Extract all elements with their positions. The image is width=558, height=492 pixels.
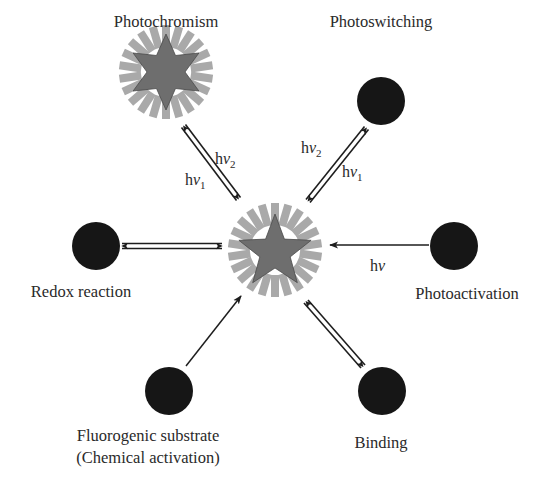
photochromism-hv1-label: hν1: [185, 171, 206, 191]
fluorogenic-arrow: [186, 296, 241, 366]
photoactivation-hv-label: hν: [370, 257, 386, 274]
photoswitching-label: Photoswitching: [330, 12, 433, 31]
redox-arrow: [122, 244, 222, 249]
binding-circle-icon: [358, 367, 406, 415]
binding-arrow: [304, 300, 365, 368]
photoswitching-hv2-label: hν2: [301, 139, 322, 159]
photoswitching-hv1-label: hν1: [342, 163, 363, 183]
six-pointed-star-icon: [133, 34, 199, 110]
redox-label: Redox reaction: [31, 282, 131, 301]
fluorogenic-circle-icon: [145, 367, 193, 415]
photoswitching-circle-icon: [357, 77, 405, 125]
central-fluorophore: [228, 203, 322, 297]
fluorogenic-label-line2: (Chemical activation): [76, 448, 219, 467]
photochromism-label: Photochromism: [114, 12, 219, 31]
photoactivation-mechanisms-diagram: Photochromism Photoswitchin: [0, 0, 558, 492]
fluorogenic-label-line1: Fluorogenic substrate: [77, 426, 220, 445]
photochromism-node: [119, 25, 213, 119]
binding-label: Binding: [354, 433, 407, 452]
redox-circle-icon: [72, 222, 120, 270]
photoactivation-label: Photoactivation: [415, 284, 519, 303]
photoswitching-arrow: [306, 127, 369, 203]
photoactivation-circle-icon: [430, 222, 478, 270]
